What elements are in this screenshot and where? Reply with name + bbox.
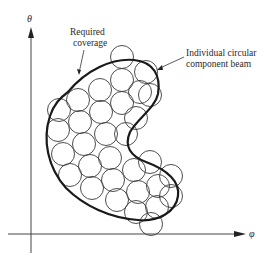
- theta-axis-label: θ: [27, 14, 32, 24]
- required-coverage-label-line2: coverage: [73, 38, 107, 48]
- component-beam-circle: [69, 111, 92, 134]
- phi-axis-label: φ: [249, 229, 255, 239]
- phi-axis-arrow-icon: [234, 231, 246, 237]
- component-beams: [47, 46, 183, 236]
- component-beam-label-line2: component beam: [186, 59, 251, 69]
- required-coverage-label-line1: Required: [70, 27, 105, 37]
- component-beam-circle: [79, 155, 102, 178]
- component-beam-circle: [140, 213, 163, 236]
- component-beam-circle: [102, 169, 125, 192]
- required-coverage-leader: [79, 50, 84, 73]
- theta-axis-arrow-icon: [28, 27, 34, 38]
- component-beam-circle: [111, 69, 134, 92]
- required-coverage-outline: [47, 60, 179, 220]
- component-beam-circle: [47, 119, 70, 142]
- component-beam-circle: [125, 107, 148, 130]
- component-beam-arrow-icon: [157, 65, 163, 70]
- component-beam-circle: [67, 89, 90, 112]
- component-beam-circle: [127, 181, 150, 204]
- component-beam-circle: [111, 92, 134, 115]
- component-beam-circle: [89, 79, 112, 102]
- component-beam-circle: [111, 46, 134, 69]
- coverage-diagram-canvas: [0, 0, 272, 261]
- component-beam-leader: [160, 57, 184, 68]
- component-beam-label-line1: Individual circular: [186, 48, 256, 58]
- component-beam-circle: [73, 133, 96, 156]
- component-beam-circle: [81, 177, 104, 200]
- component-beam-circle: [52, 143, 75, 166]
- component-beam-circle: [99, 147, 122, 170]
- component-beam-circle: [90, 101, 113, 124]
- required-coverage-arrow-icon: [77, 69, 81, 75]
